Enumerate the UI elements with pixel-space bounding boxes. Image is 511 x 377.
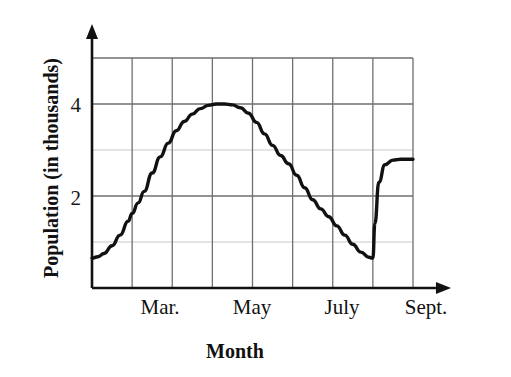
grid-vertical bbox=[132, 58, 413, 288]
y-axis-arrowhead bbox=[86, 24, 98, 39]
population-line-chart: Population (in thousands) Month 4 2 Mar.… bbox=[0, 0, 511, 377]
x-axis-arrowhead bbox=[436, 282, 451, 294]
